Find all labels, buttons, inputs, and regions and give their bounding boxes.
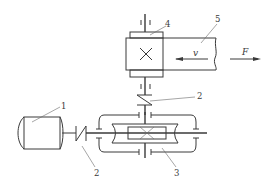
leader-5	[201, 24, 217, 43]
coupling-top-diagonal	[137, 95, 152, 105]
coupling-left	[76, 126, 86, 141]
velocity-symbol: v	[193, 48, 198, 58]
transmission-diagram: v F	[0, 0, 272, 193]
label-belt: 5	[215, 14, 220, 24]
label-coupling-left: 2	[94, 168, 99, 178]
force-arrow-head	[253, 57, 261, 61]
belt-break-line	[214, 38, 216, 70]
force-symbol: F	[241, 47, 249, 57]
force-indicator: F	[230, 47, 261, 61]
housing-bottom-right	[151, 138, 196, 152]
label-coupling-top: 2	[197, 91, 202, 101]
leader-2-top	[150, 97, 195, 101]
drum-assembly	[126, 14, 163, 95]
coupling-left-diagonal	[76, 126, 86, 141]
housing-bottom-left	[99, 138, 139, 152]
motor-left-cap	[18, 117, 24, 149]
drum-cap-bottom	[130, 70, 163, 77]
motor-body	[24, 117, 60, 149]
label-reducer: 3	[174, 168, 179, 178]
leader-3	[162, 148, 176, 167]
leader-4	[150, 26, 166, 35]
leader-1	[32, 107, 60, 122]
label-drum: 4	[165, 19, 170, 29]
electric-motor	[18, 117, 76, 149]
velocity-arrow-head	[175, 57, 183, 61]
conveyor-belt: v	[163, 38, 216, 70]
gear-reducer	[86, 112, 207, 158]
drum-cap-top	[130, 32, 163, 38]
drum-body	[126, 38, 163, 70]
label-motor: 1	[61, 101, 66, 111]
leader-2-left	[82, 146, 95, 167]
